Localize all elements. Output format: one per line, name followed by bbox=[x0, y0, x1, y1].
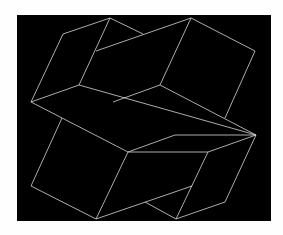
black-panel bbox=[17, 15, 271, 221]
artwork-canvas bbox=[0, 0, 283, 235]
